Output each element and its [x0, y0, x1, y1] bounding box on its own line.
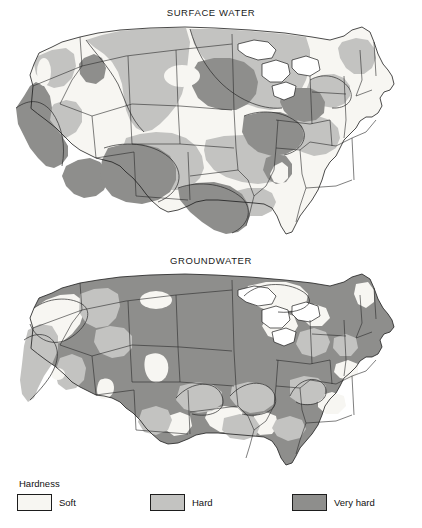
legend-label-hard: Hard	[192, 498, 213, 508]
legend-label-soft: Soft	[59, 498, 76, 508]
map-groundwater-svg	[0, 268, 422, 478]
panel-surface-water: SURFACE WATER	[0, 0, 422, 248]
water-hardness-figure: SURFACE WATER	[0, 0, 422, 528]
map-surface-water	[0, 20, 422, 248]
legend-swatch-very-hard	[292, 494, 327, 511]
legend-label-very-hard: Very hard	[334, 498, 375, 508]
panel-title-surface-water: SURFACE WATER	[0, 7, 422, 18]
legend-title: Hardness	[19, 478, 60, 489]
legend-swatch-soft	[17, 494, 52, 511]
map-surface-water-svg	[0, 20, 422, 248]
legend-item-very-hard: Very hard	[292, 494, 375, 511]
legend-items: Soft Hard Very hard	[0, 494, 422, 518]
legend-item-soft: Soft	[17, 494, 76, 511]
map-groundwater	[0, 268, 422, 478]
legend-item-hard: Hard	[150, 494, 213, 511]
legend-swatch-hard	[150, 494, 185, 511]
panel-groundwater: GROUNDWATER	[0, 248, 422, 478]
legend: Hardness Soft Hard Very hard	[0, 478, 422, 528]
panel-title-groundwater: GROUNDWATER	[0, 255, 422, 266]
